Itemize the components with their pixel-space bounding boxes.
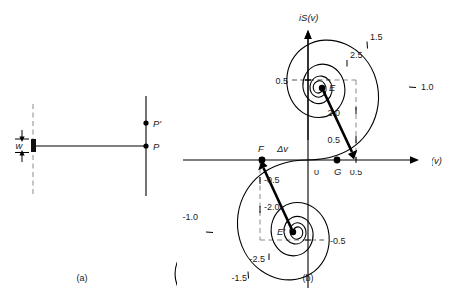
spiral-label-m2p0: -2.0: [264, 202, 280, 212]
slit-width-label: w: [16, 140, 24, 151]
panel-b-caption: (b): [303, 273, 314, 283]
figure-svg: w P P' (a) C(v) iS(v) 0.5 -0.5: [0, 0, 461, 304]
point-e-marker: [319, 85, 325, 91]
slit-aperture: [31, 139, 36, 152]
point-g-marker: [334, 157, 341, 164]
point-e-prime-marker: [290, 229, 296, 235]
point-g-label: G: [334, 166, 341, 177]
spiral-label-2p0: 2.0: [327, 108, 340, 118]
point-f-marker: [259, 157, 266, 164]
point-e-prime-label: E': [277, 226, 286, 237]
y-axis-tick-label-minus-0p5: -0.5: [330, 236, 346, 246]
y-axis-label: iS(v): [299, 12, 319, 23]
point-p-label: P: [153, 141, 160, 152]
y-axis-tick-label-0p5: 0.5: [275, 76, 288, 86]
spiral-label-2p5: 2.5: [350, 50, 363, 60]
upper-spiral-clear-plate: [330, 28, 430, 138]
panel-a: w P P' (a): [15, 96, 162, 283]
point-p-marker: [143, 143, 148, 148]
point-e-label: E: [329, 82, 336, 93]
spiral-label-m1p0: -1.0: [182, 212, 198, 222]
panel-a-caption: (a): [77, 273, 88, 283]
param-tick-m1p0: [206, 232, 213, 233]
point-p-prime-label: P': [153, 118, 162, 129]
param-tick-m1p5: [248, 272, 249, 279]
panel-b: C(v) iS(v) 0.5 -0.5 0.5 -0.5 0: [175, 12, 442, 294]
figure-container: w P P' (a) C(v) iS(v) 0.5 -0.5: [0, 0, 461, 304]
left-branch-clear-plate: [177, 140, 312, 198]
param-tick-1p0: [409, 87, 416, 88]
spiral-label-1p0: 1.0: [421, 82, 434, 92]
spiral-label-m0p5: -0.5: [264, 175, 280, 185]
y-axis-arrow-redraw: [304, 30, 311, 39]
spiral-label-1p5: 1.5: [370, 32, 383, 42]
param-tick-1p5: [367, 42, 368, 49]
point-p-prime-marker: [143, 120, 148, 125]
delta-v-label: Δv: [276, 143, 289, 154]
spiral-label-m2p5: -2.5: [249, 254, 265, 264]
spiral-label-0p5: 0.5: [327, 135, 340, 145]
spiral-label-m1p5: -1.5: [231, 273, 247, 283]
